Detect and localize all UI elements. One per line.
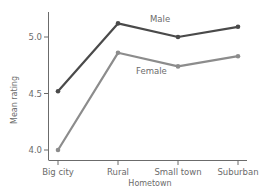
y-axis-title: Mean rating — [10, 76, 19, 124]
x-tick-label: Big city — [42, 167, 74, 177]
data-point-male — [176, 35, 181, 40]
x-tick-label: Suburban — [217, 167, 258, 177]
series-line-male — [58, 23, 238, 91]
x-tick-label: Rural — [107, 167, 129, 177]
series-group — [56, 21, 241, 152]
y-tick-label: 4.5 — [28, 89, 42, 99]
data-point-male — [116, 21, 121, 26]
data-point-female — [236, 54, 241, 59]
data-point-male — [236, 25, 241, 30]
y-tick-label: 5.0 — [28, 32, 42, 42]
y-axis: 4.04.55.0 Mean rating — [10, 12, 49, 160]
series-label-male: Male — [150, 14, 170, 24]
x-axis: Big cityRuralSmall townSuburban Hometown — [42, 161, 258, 189]
series-label-female: Female — [136, 66, 167, 76]
x-tick-label: Small town — [154, 167, 201, 177]
x-axis-title: Hometown — [128, 179, 171, 188]
data-point-female — [116, 51, 121, 56]
line-chart: 4.04.55.0 Mean rating Big cityRuralSmall… — [0, 0, 270, 193]
data-point-male — [56, 89, 61, 94]
data-point-female — [176, 64, 181, 69]
y-tick-label: 4.0 — [28, 145, 42, 155]
data-point-female — [56, 148, 61, 153]
